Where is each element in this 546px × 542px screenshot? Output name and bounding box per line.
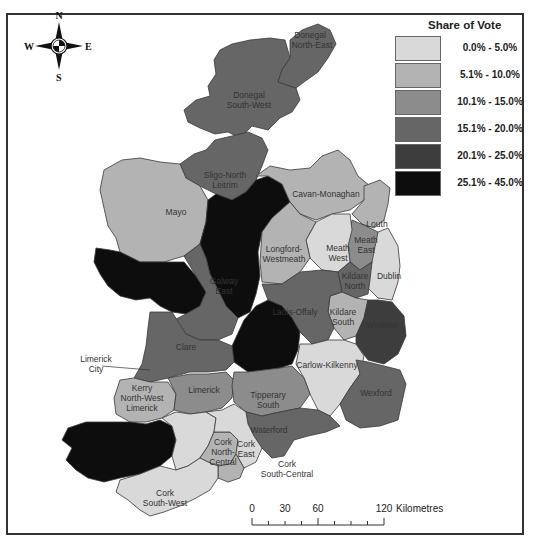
svg-text:120: 120 [376, 503, 393, 514]
label-mayo: Mayo [166, 207, 187, 217]
label-kildare-south: KildareSouth [330, 307, 357, 327]
legend-swatch [395, 90, 441, 115]
scale-unit: Kilometres [396, 503, 443, 514]
label-meath-east: MeathEast [354, 235, 378, 255]
label-cork-south-central: CorkSouth-Central [261, 459, 314, 479]
compass-rose-icon: N S E W [24, 10, 92, 83]
legend-label: 25.1% - 45.0% [447, 177, 533, 188]
legend-label: 20.1% - 25.0% [447, 150, 533, 161]
label-waterford: Waterford [250, 425, 287, 435]
label-louth: Louth [366, 219, 388, 229]
compass-e: E [85, 41, 92, 52]
compass-w: W [24, 41, 34, 52]
label-limerick: Limerick [188, 385, 220, 395]
legend-item: 5.1% - 10.0% [395, 63, 535, 89]
legend-swatch [395, 171, 441, 196]
legend-label: 5.1% - 10.0% [447, 69, 533, 80]
legend-swatch [395, 36, 441, 61]
label-longford-westmeath: Longford-Westmeath [263, 244, 306, 264]
legend-title: Share of Vote [428, 19, 538, 31]
label-meath-west: MeathWest [326, 243, 350, 263]
legend-item: 15.1% - 20.0% [395, 117, 535, 143]
label-wexford: Wexford [360, 388, 392, 398]
legend-swatch [395, 63, 441, 88]
label-wicklow: Wicklow [366, 320, 398, 330]
svg-text:30: 30 [279, 503, 291, 514]
compass-n: N [56, 10, 64, 21]
legend-label: 15.1% - 20.0% [447, 123, 533, 134]
label-clare: Clare [176, 342, 197, 352]
legend-label: 10.1% - 15.0% [447, 96, 533, 107]
label-laois-offaly: Laois-Offaly [272, 307, 318, 317]
legend-item: 10.1% - 15.0% [395, 90, 535, 116]
label-dublin: Dublin [377, 271, 401, 281]
label-kildare-north: KildareNorth [342, 271, 369, 291]
label-cork-east: CorkEast [237, 439, 256, 459]
legend-swatch [395, 144, 441, 169]
svg-text:60: 60 [312, 503, 324, 514]
scale-bar: 0 30 60 120 Kilometres [249, 503, 443, 525]
compass-s: S [56, 72, 62, 83]
legend-item: 0.0% - 5.0% [395, 36, 535, 62]
legend-label: 0.0% - 5.0% [447, 42, 533, 53]
label-cavan-monaghan: Cavan-Monaghan [292, 189, 360, 199]
legend-swatch [395, 117, 441, 142]
legend-item: 25.1% - 45.0% [395, 171, 535, 197]
label-limerick-city: LimerickCity [80, 354, 112, 374]
legend-item: 20.1% - 25.0% [395, 144, 535, 170]
svg-text:0: 0 [249, 503, 255, 514]
region-donegal-south-west [184, 38, 300, 138]
label-carlow-kilkenny: Carlow-Kilkenny [296, 360, 358, 370]
